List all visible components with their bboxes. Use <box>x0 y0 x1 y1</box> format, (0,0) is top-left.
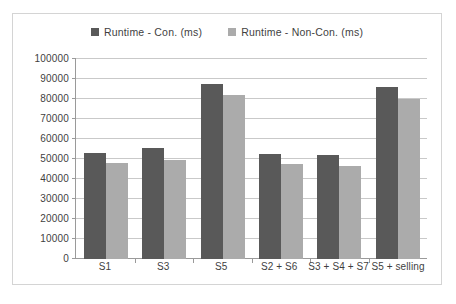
y-tick-label: 70000 <box>40 113 69 124</box>
bar-runtime-non-con[interactable] <box>106 163 128 259</box>
y-tick-mark <box>72 198 76 199</box>
y-tick-label: 40000 <box>40 173 69 184</box>
legend-swatch-runtime-non-con <box>228 28 236 36</box>
y-tick-label: 20000 <box>40 213 69 224</box>
bar-runtime-con[interactable] <box>201 84 223 259</box>
chart-container: Runtime - Con. (ms) Runtime - Non-Con. (… <box>12 13 442 285</box>
x-tick-label: S5 <box>192 261 250 272</box>
bar-runtime-non-con[interactable] <box>281 164 303 259</box>
x-tick-label: S2 + S6 <box>250 261 308 272</box>
bar-group <box>310 58 368 259</box>
y-tick-label: 30000 <box>40 193 69 204</box>
y-tick-label: 0 <box>63 253 69 264</box>
legend-label-runtime-non-con: Runtime - Non-Con. (ms) <box>241 26 363 38</box>
bar-runtime-con[interactable] <box>84 153 106 259</box>
x-axis: S1S3S5S2 + S6S3 + S4 + S7S5 + selling <box>76 261 427 272</box>
y-tick-mark <box>72 258 76 259</box>
y-tick-label: 80000 <box>40 93 69 104</box>
y-tick-mark <box>72 178 76 179</box>
legend-label-runtime-con: Runtime - Con. (ms) <box>104 26 202 38</box>
legend-entry-runtime-con[interactable]: Runtime - Con. (ms) <box>91 26 202 38</box>
y-tick-mark <box>72 58 76 59</box>
bar-group <box>369 58 427 259</box>
y-tick-mark <box>72 158 76 159</box>
y-tick-mark <box>72 98 76 99</box>
bar-runtime-con[interactable] <box>142 148 164 259</box>
y-tick-mark <box>72 138 76 139</box>
x-tick-label: S5 + selling <box>369 261 427 272</box>
y-tick-label: 50000 <box>40 153 69 164</box>
x-tick-label: S1 <box>76 261 134 272</box>
bar-group <box>252 58 310 259</box>
y-tick-mark <box>72 218 76 219</box>
bar-runtime-non-con[interactable] <box>398 99 420 259</box>
bar-group <box>77 58 135 259</box>
y-tick-mark <box>72 78 76 79</box>
y-tick-label: 10000 <box>40 233 69 244</box>
y-tick-mark <box>72 238 76 239</box>
x-tick-label: S3 + S4 + S7 <box>308 261 369 272</box>
legend-swatch-runtime-con <box>91 28 99 36</box>
y-tick-mark <box>72 118 76 119</box>
bar-runtime-non-con[interactable] <box>223 95 245 259</box>
bar-runtime-con[interactable] <box>259 154 281 259</box>
bar-series-group <box>77 58 427 259</box>
bar-group <box>135 58 193 259</box>
bar-group <box>194 58 252 259</box>
plot-area: 1000009000080000700006000050000400003000… <box>75 58 427 259</box>
y-tick-label: 90000 <box>40 73 69 84</box>
bar-runtime-con[interactable] <box>317 155 339 259</box>
legend-entry-runtime-non-con[interactable]: Runtime - Non-Con. (ms) <box>228 26 363 38</box>
bar-runtime-con[interactable] <box>376 87 398 259</box>
bar-runtime-non-con[interactable] <box>339 166 361 259</box>
bar-runtime-non-con[interactable] <box>164 160 186 259</box>
chart-legend: Runtime - Con. (ms) Runtime - Non-Con. (… <box>13 26 441 38</box>
x-tick-label: S3 <box>134 261 192 272</box>
y-tick-label: 60000 <box>40 133 69 144</box>
y-tick-label: 100000 <box>34 53 69 64</box>
